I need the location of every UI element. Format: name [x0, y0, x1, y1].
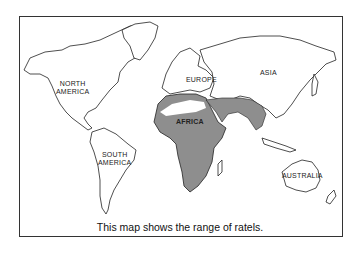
new-zealand-shape: [326, 190, 336, 204]
label-australia: AUSTRALIA: [282, 172, 323, 180]
label-north-america-line1: NORTH: [56, 80, 89, 88]
world-map: [0, 0, 360, 253]
label-africa: AFRICA: [176, 118, 204, 126]
label-north-america: NORTH AMERICA: [56, 80, 89, 96]
label-europe: EUROPE: [186, 76, 217, 84]
madagascar-shape: [218, 160, 222, 176]
map-caption: This map shows the range of ratels.: [0, 221, 360, 233]
label-south-america-line2: AMERICA: [98, 159, 131, 167]
south-america-shape: [90, 128, 136, 214]
label-north-america-line2: AMERICA: [56, 88, 89, 96]
label-asia: ASIA: [260, 69, 277, 77]
label-south-america: SOUTH AMERICA: [98, 151, 131, 167]
indonesia-shape: [262, 138, 296, 152]
label-south-america-line1: SOUTH: [98, 151, 131, 159]
